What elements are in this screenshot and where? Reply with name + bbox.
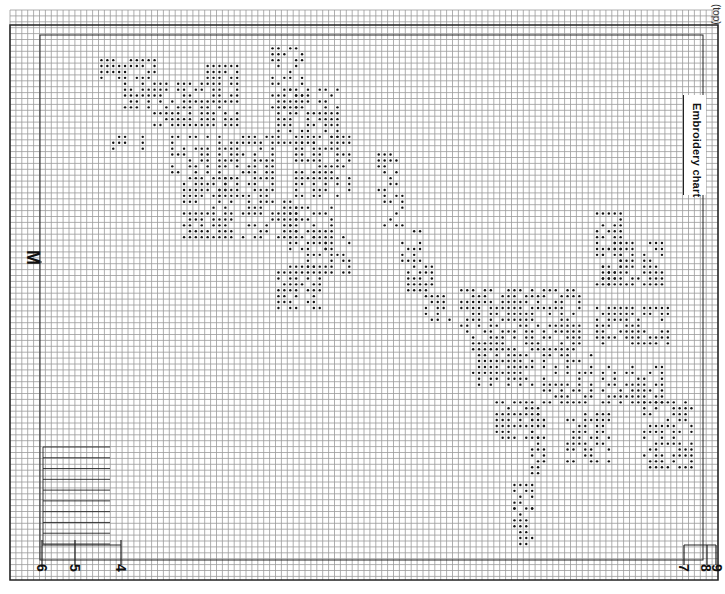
marker-6: 6 [34,564,50,572]
marker-5: 5 [67,564,83,572]
embroidery-chart-grid [0,0,725,594]
orientation-note: (top) [711,4,722,25]
marker-4: 4 [113,564,129,572]
marker-9: 9 [709,564,725,572]
center-mark-label: M [22,250,43,265]
chart-title: Embroidery chart [691,103,703,197]
marker-7: 7 [676,564,692,572]
